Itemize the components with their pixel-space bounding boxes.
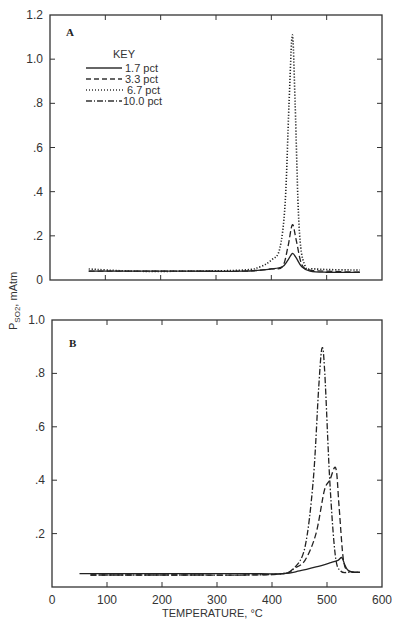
panel-b-label: B — [69, 337, 77, 349]
y-tick-label: .4 — [33, 185, 43, 199]
y-tick-label: 0 — [36, 273, 43, 287]
y-tick-label: 1.2 — [26, 8, 43, 22]
y-tick-label: .2 — [33, 229, 43, 243]
x-axis-title: TEMPERATURE, °C — [162, 607, 263, 619]
x-tick-label: 600 — [372, 593, 392, 607]
x-tick-label: 200 — [152, 593, 172, 607]
panel-b-ticks: 0100200300400500600.2.4.6.81.0 — [28, 313, 392, 607]
x-tick-label: 0 — [49, 593, 56, 607]
y-tick-label: .8 — [33, 96, 43, 110]
panel-a-label: A — [66, 26, 74, 38]
y-axis-title: PSO2, mAtm — [7, 272, 22, 330]
panel-a-ticks: 0.2.4.6.81.01.2 — [26, 8, 382, 287]
legend-item-4: 10.0 pct — [123, 95, 162, 107]
x-tick-label: 100 — [97, 593, 117, 607]
series-line — [91, 467, 361, 575]
panel-b-frame — [52, 320, 382, 587]
series-line — [89, 253, 360, 272]
y-tick-label: .4 — [35, 473, 45, 487]
series-line — [91, 348, 361, 576]
y-tick-label: 1.0 — [26, 52, 43, 66]
y-tick-label: .6 — [33, 141, 43, 155]
figure: 0.2.4.6.81.01.2 A KEY 1.7 pct 3.3 pct 6.… — [0, 0, 401, 627]
series-line — [89, 225, 360, 273]
legend-title: KEY — [113, 48, 136, 60]
x-tick-label: 400 — [262, 593, 282, 607]
x-tick-label: 300 — [207, 593, 227, 607]
panel-a-frame — [50, 15, 382, 280]
panel-b-series — [80, 348, 361, 576]
y-tick-label: .2 — [35, 527, 45, 541]
y-tick-label: .8 — [35, 366, 45, 380]
x-tick-label: 500 — [317, 593, 337, 607]
legend: KEY 1.7 pct 3.3 pct 6.7 pct 10.0 pct — [86, 48, 162, 107]
y-tick-label: 1.0 — [28, 313, 45, 327]
y-tick-label: .6 — [35, 420, 45, 434]
series-line — [80, 557, 361, 573]
